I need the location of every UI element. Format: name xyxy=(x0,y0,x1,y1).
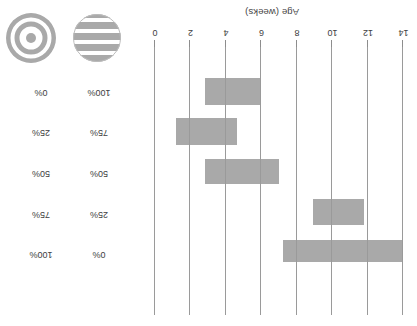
x-axis-tick-label: 0 xyxy=(152,28,157,38)
percent-value-right: 25% xyxy=(32,128,50,138)
percent-value-left: 100% xyxy=(87,88,110,98)
striped-circle-icon-svg xyxy=(72,13,122,63)
gridline xyxy=(225,47,226,315)
legend-icon-row xyxy=(0,6,127,68)
bar xyxy=(205,159,280,184)
x-axis-tick-mark xyxy=(367,40,368,47)
bullseye-circle-icon xyxy=(6,13,56,63)
percent-value-right: 100% xyxy=(29,250,52,260)
figure-root: 14121086420 Age (weeks) 0%100%25%75%50%5… xyxy=(0,0,417,326)
x-axis-tick-labels: 14121086420 xyxy=(127,24,417,38)
percent-value-left: 0% xyxy=(92,250,105,260)
gridline xyxy=(296,47,297,315)
bar-chart: 14121086420 Age (weeks) xyxy=(127,0,417,326)
percent-row: 50%50% xyxy=(0,163,127,179)
gridline xyxy=(261,47,262,315)
bar xyxy=(176,118,236,145)
bar xyxy=(205,78,260,105)
x-axis-tick-label: 14 xyxy=(398,28,408,38)
percent-value-left: 25% xyxy=(90,210,108,220)
x-axis-tick-mark xyxy=(154,40,155,47)
x-axis-tick-label: 4 xyxy=(223,28,228,38)
gridline xyxy=(190,47,191,315)
x-axis-tick-mark xyxy=(403,40,404,47)
x-axis-tick-label: 12 xyxy=(363,28,373,38)
plot-area xyxy=(127,47,417,326)
gridline xyxy=(332,47,333,315)
percent-row: 0%100% xyxy=(0,244,127,260)
percent-value-right: 50% xyxy=(32,169,50,179)
percent-value-right: 0% xyxy=(34,88,47,98)
striped-circle-icon xyxy=(72,13,122,63)
x-axis-tick-label: 6 xyxy=(259,28,264,38)
bar xyxy=(313,199,364,225)
gridline xyxy=(403,47,404,315)
x-axis-tick-mark xyxy=(332,40,333,47)
x-axis-tick-label: 10 xyxy=(327,28,337,38)
x-axis-tick-mark xyxy=(190,40,191,47)
percent-row: 100%0% xyxy=(0,82,127,98)
gridline xyxy=(367,47,368,315)
bar xyxy=(283,240,404,262)
percent-value-right: 75% xyxy=(32,210,50,220)
x-axis-tick-label: 8 xyxy=(294,28,299,38)
x-axis-tick-mark xyxy=(261,40,262,47)
percent-value-left: 50% xyxy=(90,169,108,179)
percent-value-left: 75% xyxy=(90,128,108,138)
x-axis-tick-mark xyxy=(225,40,226,47)
percent-row: 75%25% xyxy=(0,122,127,138)
x-axis-title: Age (weeks) xyxy=(127,7,417,18)
gridline xyxy=(154,47,155,315)
x-axis-tick-mark xyxy=(296,40,297,47)
x-axis-tick-label: 2 xyxy=(188,28,193,38)
percent-row: 25%75% xyxy=(0,204,127,220)
bullseye-circle-icon-svg xyxy=(6,13,56,63)
percent-legend-table: 0%100%25%75%50%50%75%25%100%0% xyxy=(0,0,127,326)
